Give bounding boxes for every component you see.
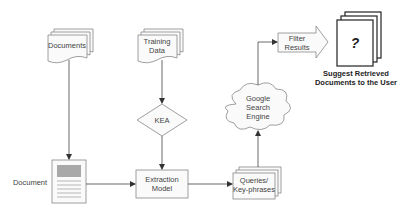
suggest-label-line2: Documents to the User <box>315 78 397 87</box>
document-node: Document <box>13 160 86 203</box>
training-data-node: Training Data <box>138 29 183 63</box>
kea-node: KEA <box>137 104 187 136</box>
google-search-engine-node: Google Search Engine <box>225 83 290 130</box>
extraction-model-label-line2: Model <box>152 184 173 193</box>
filter-results-node: Filter Results <box>278 26 328 58</box>
filter-results-label-line1: Filter <box>289 34 306 43</box>
flow-diagram: Documents Training Data KEA Document Ext… <box>0 0 406 216</box>
google-label-line2: Search <box>246 103 270 112</box>
queries-node: Queries/ Key-phrases <box>233 167 281 199</box>
edge-google-to-filter-results <box>258 42 277 85</box>
extraction-model-label-line1: Extraction <box>145 175 178 184</box>
documents-label: Documents <box>48 41 86 50</box>
filter-results-label-line2: Results <box>284 43 309 52</box>
suggest-documents-node: ? Suggest Retrieved Documents to the Use… <box>315 12 397 87</box>
suggest-label-line1: Suggest Retrieved <box>323 69 389 78</box>
training-data-label-line2: Data <box>149 46 166 55</box>
queries-label-line1: Queries/ <box>240 176 269 185</box>
google-label-line3: Engine <box>246 112 269 121</box>
queries-label-line2: Key-phrases <box>233 185 275 194</box>
document-label: Document <box>13 178 48 187</box>
documents-node: Documents <box>48 29 93 63</box>
kea-label: KEA <box>154 116 169 125</box>
question-mark-icon: ? <box>351 35 360 51</box>
google-label-line1: Google <box>246 94 270 103</box>
extraction-model-node: Extraction Model <box>136 170 188 198</box>
document-header-block <box>57 165 81 177</box>
training-data-label-line1: Training <box>144 37 171 46</box>
